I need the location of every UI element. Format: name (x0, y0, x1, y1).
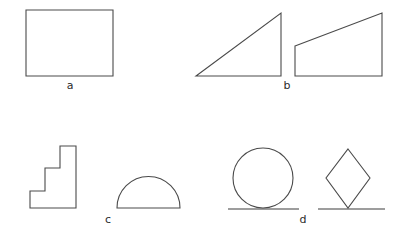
figure-label-b: b (284, 80, 291, 91)
shape-group-b (196, 13, 382, 76)
shape-group-c (30, 146, 180, 208)
staircase-shape (30, 146, 76, 208)
shape-group-a (26, 10, 113, 76)
figure-label-c: c (105, 214, 111, 225)
rectangle-shape (26, 10, 113, 76)
shape-group-d (228, 148, 385, 209)
diamond-shape (326, 149, 370, 208)
geometry-figure-svg (0, 0, 405, 242)
circle-shape (233, 148, 293, 208)
figure-canvas: a b c d (0, 0, 405, 242)
right-triangle-shape (196, 13, 281, 76)
figure-label-a: a (67, 80, 74, 91)
figure-label-d: d (300, 214, 307, 225)
semicircle-dome-shape (117, 177, 180, 208)
right-trapezoid-shape (295, 13, 382, 76)
